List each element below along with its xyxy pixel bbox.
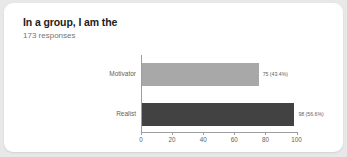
value-label-motivator: 75 (43.4%) bbox=[263, 72, 288, 77]
x-axis-tick-label: 20 bbox=[162, 137, 182, 143]
x-axis-tick bbox=[297, 132, 298, 135]
bar-motivator bbox=[142, 63, 259, 86]
bar-realist bbox=[142, 103, 294, 126]
x-axis-tick-label: 80 bbox=[255, 137, 275, 143]
category-label-realist: Realist bbox=[44, 111, 136, 118]
x-axis-tick bbox=[234, 132, 235, 135]
x-axis-line bbox=[141, 132, 297, 133]
x-axis-tick bbox=[141, 132, 142, 135]
x-axis-tick bbox=[203, 132, 204, 135]
bar-chart: 020406080100Motivator75 (43.4%)Realist98… bbox=[4, 3, 343, 152]
category-label-motivator: Motivator bbox=[44, 71, 136, 78]
x-axis-tick bbox=[265, 132, 266, 135]
x-axis-tick-label: 60 bbox=[224, 137, 244, 143]
x-axis-tick-label: 100 bbox=[287, 137, 307, 143]
x-axis-tick bbox=[172, 132, 173, 135]
chart-card: In a group, I am the 173 responses 02040… bbox=[4, 3, 343, 152]
value-label-realist: 98 (56.6%) bbox=[298, 112, 323, 117]
x-axis-tick-label: 40 bbox=[193, 137, 213, 143]
x-axis-tick-label: 0 bbox=[131, 137, 151, 143]
